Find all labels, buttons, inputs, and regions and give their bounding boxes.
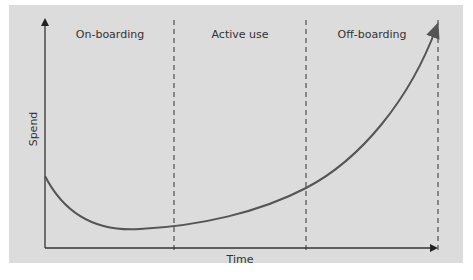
phase-label-onboarding: On-boarding [76,28,144,41]
spend-over-time-diagram: On-boarding Active use Off-boarding Time… [0,0,473,280]
spend-curve [45,26,437,229]
phase-label-offboarding: Off-boarding [338,28,407,41]
y-axis-label: Spend [27,112,40,147]
x-axis-label: Time [226,253,254,266]
phase-label-active-use: Active use [212,28,269,41]
